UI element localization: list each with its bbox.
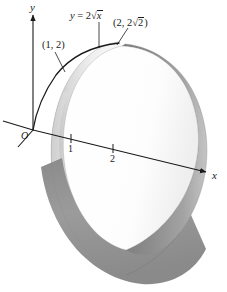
x-tick-label-1: 1 — [68, 144, 73, 154]
y-axis-label: y — [30, 2, 35, 13]
point-label-2: (2, 2√2) — [113, 17, 148, 29]
equation-radicand: x — [97, 10, 103, 22]
origin-label: O — [21, 131, 28, 141]
equation-equals: = — [77, 10, 83, 21]
z-axis — [3, 121, 33, 130]
x-axis-label: x — [212, 170, 217, 181]
equation-lhs: y — [70, 10, 75, 21]
point-label-2-prefix: (2, 2 — [113, 17, 132, 28]
figure-canvas — [0, 0, 227, 292]
x-tick-label-2: 2 — [110, 154, 115, 164]
point-label-2-suffix: ) — [144, 17, 148, 28]
math-figure: y x O 1 2 (1, 2) (2, 2√2) y = 2√x — [0, 0, 227, 292]
leader-line-point-2 — [117, 28, 128, 45]
surface-of-revolution — [41, 42, 207, 284]
leader-line-point-1 — [55, 52, 65, 72]
curve-equation-label: y = 2√x — [70, 10, 103, 22]
point-label-1: (1, 2) — [42, 40, 65, 51]
